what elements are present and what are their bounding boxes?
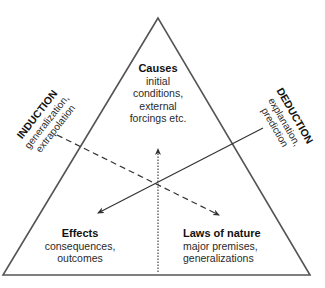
causes-line-2: conditions, bbox=[110, 87, 206, 100]
vertex-laws-of-nature: Laws of nature major premises, generaliz… bbox=[183, 227, 283, 265]
dashed-arrow bbox=[57, 135, 219, 215]
laws-line-2: generalizations bbox=[183, 252, 283, 265]
vertex-effects: Effects consequences, outcomes bbox=[30, 227, 130, 265]
laws-title: Laws of nature bbox=[183, 227, 283, 240]
effects-title: Effects bbox=[30, 227, 130, 240]
solid-arrow bbox=[98, 128, 263, 213]
effects-line-2: outcomes bbox=[30, 252, 130, 265]
causes-line-3: external bbox=[110, 100, 206, 113]
causes-title: Causes bbox=[110, 62, 206, 75]
causes-line-4: forcings etc. bbox=[110, 112, 206, 125]
laws-line-1: major premises, bbox=[183, 240, 283, 253]
causes-line-1: initial bbox=[110, 75, 206, 88]
effects-line-1: consequences, bbox=[30, 240, 130, 253]
vertex-causes: Causes initial conditions, external forc… bbox=[110, 62, 206, 125]
